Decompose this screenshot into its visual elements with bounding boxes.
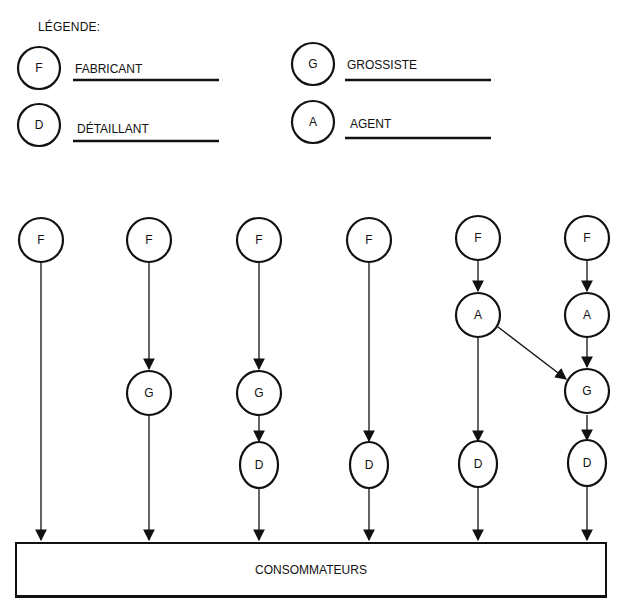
svg-text:F: F xyxy=(474,231,481,245)
consumers-box: CONSOMMATEURS xyxy=(15,542,607,598)
svg-text:F: F xyxy=(35,61,42,75)
svg-text:A: A xyxy=(474,308,482,322)
svg-text:G: G xyxy=(582,384,591,398)
legend-label-fabricant: FABRICANT xyxy=(75,62,142,76)
svg-text:F: F xyxy=(145,233,152,247)
legend-label-detaillant: DÉTAILLANT xyxy=(77,122,149,136)
svg-text:D: D xyxy=(35,118,44,132)
svg-text:F: F xyxy=(583,231,590,245)
svg-text:D: D xyxy=(255,458,264,472)
svg-text:A: A xyxy=(309,115,317,129)
svg-text:D: D xyxy=(474,457,483,471)
consumers-label: CONSOMMATEURS xyxy=(255,563,367,577)
legend-label-grossiste: GROSSISTE xyxy=(347,58,417,72)
legend-label-agent: AGENT xyxy=(350,117,391,131)
svg-text:G: G xyxy=(144,386,153,400)
svg-text:F: F xyxy=(255,233,262,247)
svg-text:F: F xyxy=(365,233,372,247)
svg-text:D: D xyxy=(583,456,592,470)
svg-text:F: F xyxy=(37,233,44,247)
distribution-channels-diagram: F G D A xyxy=(0,0,628,614)
svg-text:D: D xyxy=(365,458,374,472)
svg-text:A: A xyxy=(583,308,591,322)
svg-text:G: G xyxy=(308,57,317,71)
svg-text:G: G xyxy=(254,386,263,400)
